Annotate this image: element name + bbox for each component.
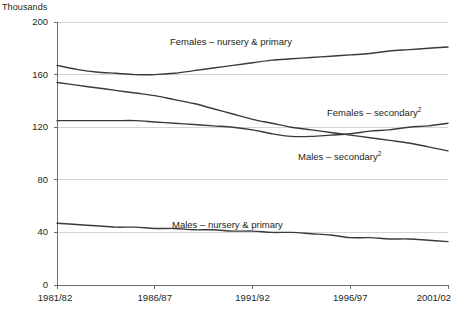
- axis-ticks: [54, 22, 448, 289]
- footnote-strip: [0, 308, 455, 314]
- chart-container: Thousands 04080120160200 1981/821986/871…: [0, 0, 455, 314]
- footnote-marker: 2: [378, 150, 382, 157]
- footnote-marker: 2: [418, 106, 422, 113]
- x-tick-label: 1986/87: [138, 292, 172, 303]
- y-tick-label: 0: [20, 279, 48, 290]
- series-label-0: Females – nursery & primary: [170, 36, 292, 47]
- y-tick-label: 160: [20, 69, 48, 80]
- x-tick-label: 1991/92: [235, 292, 269, 303]
- y-tick-label: 40: [20, 226, 48, 237]
- x-tick-label: 1981/82: [38, 292, 72, 303]
- y-tick-label: 80: [20, 174, 48, 185]
- chart-axes: [57, 22, 448, 285]
- series-label-2: Males – secondary2: [298, 151, 381, 162]
- series-line-2: [57, 121, 448, 137]
- series-line-0: [57, 47, 448, 75]
- x-tick-label: 1996/97: [333, 292, 367, 303]
- gridlines: [57, 22, 448, 232]
- series-label-1: Females – secondary2: [327, 107, 421, 118]
- x-tick-label: 2001/02: [417, 292, 451, 303]
- y-tick-label: 120: [20, 121, 48, 132]
- series-label-3: Males – nursery & primary: [172, 219, 283, 230]
- data-series-lines: [57, 47, 448, 242]
- y-tick-label: 200: [20, 16, 48, 27]
- line-chart-plot: [0, 0, 455, 314]
